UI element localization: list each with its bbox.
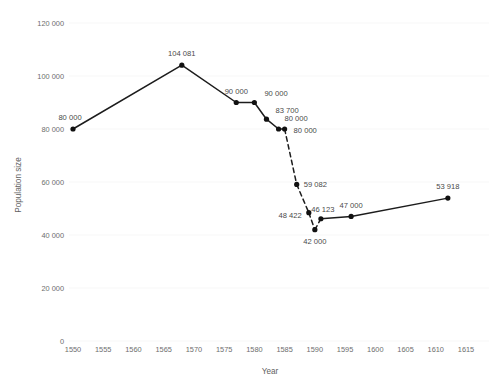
y-tick-label: 120 000 [37, 19, 64, 28]
x-tick-label: 1585 [276, 345, 292, 354]
x-tick-label: 1570 [186, 345, 202, 354]
data-point-label: 104 081 [168, 49, 195, 58]
y-tick-label: 80 000 [41, 125, 64, 134]
x-tick-label: 1595 [337, 345, 353, 354]
data-point-marker [276, 126, 281, 131]
x-axis-title: Year [262, 367, 279, 376]
data-point-label: 48 422 [279, 211, 302, 220]
y-tick-label: 0 [60, 337, 64, 346]
data-point-label: 46 123 [311, 205, 334, 214]
x-tick-label: 1580 [246, 345, 262, 354]
x-axis-tick-labels: 1550155515601565157015751580158515901595… [65, 345, 474, 354]
data-point-label: 90 000 [264, 89, 287, 98]
series-segment [285, 129, 297, 184]
x-tick-label: 1590 [307, 345, 323, 354]
x-tick-label: 1615 [458, 345, 474, 354]
y-tick-label: 20 000 [41, 284, 64, 293]
x-tick-label: 1605 [397, 345, 413, 354]
data-point-label: 42 000 [303, 237, 326, 246]
data-point-marker [445, 196, 450, 201]
series-segment [254, 103, 266, 120]
data-point-label: 80 000 [294, 126, 317, 135]
data-point-markers-group [70, 63, 450, 233]
series-line-group [73, 65, 448, 230]
data-point-marker [234, 100, 239, 105]
y-axis-title: Population size [14, 157, 23, 213]
data-point-label: 90 000 [225, 87, 248, 96]
x-tick-label: 1600 [367, 345, 383, 354]
x-tick-label: 1575 [216, 345, 232, 354]
data-point-marker [282, 126, 287, 131]
x-tick-label: 1565 [155, 345, 171, 354]
x-tick-label: 1610 [428, 345, 444, 354]
series-segment [321, 216, 351, 218]
series-segment [73, 65, 182, 129]
data-point-marker [179, 63, 184, 68]
series-segment [351, 198, 448, 216]
y-tick-label: 100 000 [37, 72, 64, 81]
gridlines-group [69, 23, 489, 341]
series-segment [309, 213, 315, 230]
y-axis-tick-labels: 020 00040 00060 00080 000100 000120 000 [37, 19, 64, 346]
population-line-chart: 020 00040 00060 00080 000100 000120 000 … [0, 0, 495, 387]
data-point-marker [294, 182, 299, 187]
data-point-label: 80 000 [285, 114, 308, 123]
data-point-marker [312, 227, 317, 232]
data-point-label: 47 000 [340, 201, 363, 210]
data-point-label: 80 000 [58, 113, 81, 122]
y-tick-label: 60 000 [41, 178, 64, 187]
data-point-marker [264, 117, 269, 122]
y-tick-label: 40 000 [41, 231, 64, 240]
chart-canvas: 020 00040 00060 00080 000100 000120 000 … [0, 0, 495, 387]
x-tick-label: 1560 [125, 345, 141, 354]
data-point-label: 59 082 [304, 180, 327, 189]
x-tick-label: 1550 [65, 345, 81, 354]
series-segment [182, 65, 236, 102]
data-point-labels-group: 80 000104 08190 00090 00083 70080 00080 … [58, 49, 459, 246]
data-point-marker [349, 214, 354, 219]
data-point-marker [70, 126, 75, 131]
data-point-marker [318, 216, 323, 221]
x-tick-label: 1555 [95, 345, 111, 354]
data-point-label: 53 918 [436, 182, 459, 191]
data-point-marker [252, 100, 257, 105]
